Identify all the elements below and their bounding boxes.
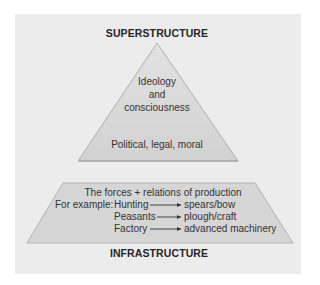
example-from-hunting: Hunting [114,199,148,212]
superstructure-line-and: and [149,89,166,102]
superstructure-title: SUPERSTRUCTURE [106,27,208,39]
infrastructure-header: The forces + relations of production [84,187,241,200]
example-to-plough: plough/craft [184,211,236,224]
superstructure-line-political: Political, legal, moral [111,139,203,152]
example-to-spears: spears/bow [184,199,235,212]
example-prefix: For example: [55,199,113,212]
example-from-peasants: Peasants [114,211,156,224]
example-from-factory: Factory [114,223,147,236]
infrastructure-title: INFRASTRUCTURE [110,247,208,259]
superstructure-line-ideology: Ideology [138,76,176,89]
example-to-machinery: advanced machinery [184,223,276,236]
superstructure-line-consciousness: consciousness [124,102,190,115]
